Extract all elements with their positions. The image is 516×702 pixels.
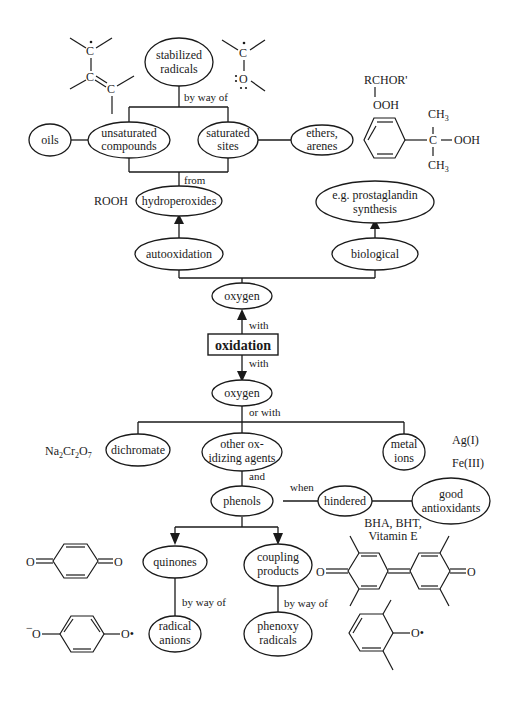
svg-text:dichromate: dichromate (111, 443, 165, 457)
svg-text:arenes: arenes (307, 139, 338, 153)
node-ethers-arenes: ethers, arenes (291, 125, 353, 155)
edge-label-when: when (290, 481, 314, 493)
edge-label-by-way-of: by way of (184, 91, 228, 103)
edge-label-by-way-of-coupling: by way of (284, 597, 328, 609)
node-good-antioxidants: good antioxidants (412, 478, 490, 524)
edge-label-with-up: with (249, 319, 269, 331)
svg-text:products: products (257, 564, 299, 578)
node-phenols: phenols (211, 486, 273, 516)
svg-text:C: C (86, 70, 94, 84)
svg-text:O: O (316, 565, 325, 579)
svg-text:C: C (107, 82, 115, 96)
node-oxygen-bottom: oxygen (212, 380, 272, 406)
svg-text:OOH: OOH (454, 133, 480, 147)
rooh-label: ROOH (94, 194, 128, 208)
svg-text:oxygen: oxygen (224, 289, 259, 303)
alkoxy-hydroperoxide-structure: RCHOR' OOH (364, 73, 408, 112)
svg-text:hindered: hindered (324, 494, 366, 508)
edge-label-from: from (184, 174, 206, 186)
svg-text:RCHOR': RCHOR' (364, 73, 408, 87)
node-metal-ions: metal ions (383, 434, 425, 470)
svg-text:oxygen: oxygen (224, 386, 259, 400)
svg-text:coupling: coupling (257, 550, 299, 564)
node-phenoxy-radicals: phenoxy radicals (244, 612, 312, 656)
svg-text:O: O (32, 627, 41, 641)
node-hydroperoxides: hydroperoxides (136, 186, 222, 216)
svg-text:C: C (239, 46, 247, 60)
node-hindered: hindered (318, 486, 372, 516)
svg-text:unsaturated: unsaturated (101, 126, 156, 140)
semiquinone-radical-anion-structure: − O O• (26, 616, 134, 652)
node-dichromate: dichromate (106, 434, 170, 466)
svg-text:phenoxy: phenoxy (257, 619, 298, 633)
svg-text:antioxidants: antioxidants (422, 501, 481, 515)
node-saturated-sites: saturated sites (198, 122, 258, 158)
page-title: oxidation (215, 338, 271, 353)
node-oils: oils (29, 124, 71, 156)
node-radical-anions: radical anions (149, 616, 201, 652)
node-prostaglandin-synthesis: e.g. prostaglandin synthesis (316, 181, 434, 223)
svg-text:radicals: radicals (160, 62, 198, 76)
oxidation-concept-map: by way of from with with or with and whe… (0, 0, 516, 702)
svg-text:other ox-: other ox- (220, 437, 264, 451)
edge-label-or-with: or with (249, 406, 281, 418)
svg-text:sites: sites (217, 139, 239, 153)
antioxidant-examples-line1: BHA, BHT, (364, 516, 421, 530)
svg-text:saturated: saturated (206, 126, 249, 140)
edge-label-and: and (249, 470, 265, 482)
cumene-hydroperoxide-structure: C CH3 CH3 OOH (364, 107, 480, 174)
svg-text:metal: metal (391, 437, 418, 451)
svg-text:quinones: quinones (153, 555, 197, 569)
node-oxygen-top: oxygen (212, 283, 272, 309)
svg-text:OOH: OOH (373, 98, 399, 112)
node-biological: biological (332, 238, 418, 270)
svg-text:C: C (429, 133, 437, 147)
svg-text:compounds: compounds (101, 139, 157, 153)
benzoquinone-structure: O O (26, 544, 123, 578)
ketyl-radical-structure: C O (222, 40, 265, 91)
svg-text:phenols: phenols (223, 494, 261, 508)
svg-text:synthesis: synthesis (353, 202, 397, 216)
svg-text:anions: anions (159, 633, 191, 647)
allyl-radical-structure: C C C (70, 38, 134, 114)
svg-text:CH3: CH3 (428, 158, 449, 174)
svg-text:radical: radical (159, 619, 192, 633)
svg-text:O•: O• (411, 626, 424, 640)
node-unsaturated-compounds: unsaturated compounds (88, 122, 170, 158)
svg-text:C: C (86, 44, 94, 58)
iron-ion-label: Fe(III) (452, 456, 484, 470)
svg-text:e.g. prostaglandin: e.g. prostaglandin (332, 188, 418, 202)
svg-text:ions: ions (394, 451, 414, 465)
node-autooxidation: autooxidation (135, 238, 223, 270)
antioxidant-examples-line2: Vitamin E (369, 529, 418, 543)
node-stabilized-radicals: stabilized radicals (145, 38, 213, 86)
svg-text:O: O (114, 555, 123, 569)
node-quinones: quinones (143, 546, 207, 578)
dimethylphenoxy-radical-structure: O• (349, 600, 424, 670)
edge-label-with-down: with (249, 357, 269, 369)
silver-ion-label: Ag(I) (452, 433, 479, 447)
svg-text:oils: oils (41, 133, 59, 147)
svg-text:O•: O• (121, 627, 134, 641)
node-coupling-products: coupling products (244, 544, 312, 586)
diphenoquinone-structure: O O (316, 536, 476, 606)
node-oxidation-title: oxidation (208, 334, 278, 355)
edge-label-by-way-of-quinones: by way of (182, 596, 226, 608)
svg-text:stabilized: stabilized (156, 48, 202, 62)
svg-text:O: O (467, 565, 476, 579)
svg-text:autooxidation: autooxidation (146, 247, 212, 261)
svg-text:hydroperoxides: hydroperoxides (142, 194, 217, 208)
svg-text:O: O (26, 555, 35, 569)
svg-text:radicals: radicals (259, 633, 297, 647)
sodium-dichromate-formula: Na2Cr2O7 (45, 444, 92, 460)
svg-text:good: good (439, 487, 463, 501)
svg-text:idizing agents: idizing agents (209, 451, 276, 465)
node-other-oxidizing-agents: other ox- idizing agents (202, 433, 282, 471)
svg-text:biological: biological (351, 247, 400, 261)
svg-text:ethers,: ethers, (306, 126, 338, 140)
svg-text:O: O (239, 72, 248, 86)
svg-text:CH3: CH3 (428, 107, 449, 123)
